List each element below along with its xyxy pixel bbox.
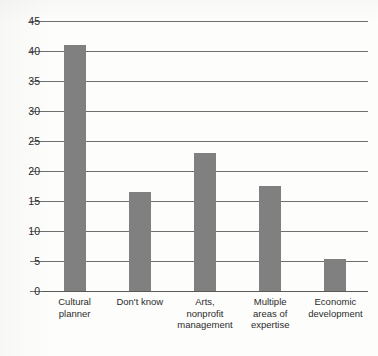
gridline	[42, 81, 368, 82]
bar	[194, 153, 216, 291]
bar	[324, 259, 346, 291]
y-axis-tick-label: 25	[0, 136, 40, 146]
gridline	[42, 21, 368, 22]
x-axis-category-label: Economic development	[298, 296, 372, 319]
gridline	[42, 111, 368, 112]
gridline	[42, 51, 368, 52]
x-axis-category-label: Cultural planner	[38, 296, 112, 319]
axis-baseline	[42, 291, 368, 292]
y-axis-tick-label: 40	[0, 46, 40, 56]
bar	[259, 186, 281, 291]
y-axis-tick-label: 0	[0, 286, 40, 296]
x-axis-category-label: Don't know	[103, 296, 177, 308]
x-axis-category-label: Arts, nonprofit management	[168, 296, 242, 331]
x-axis-labels: Cultural plannerDon't knowArts, nonprofi…	[42, 296, 368, 352]
bar	[129, 192, 151, 291]
bar	[64, 45, 86, 291]
y-axis-tick-label: 15	[0, 196, 40, 206]
y-axis-tick-label: 5	[0, 256, 40, 266]
y-axis-tick-label: 10	[0, 226, 40, 236]
gridline	[42, 141, 368, 142]
y-axis-tick-label: 45	[0, 16, 40, 26]
plot-area	[42, 21, 368, 291]
x-axis-category-label: Multiple areas of expertise	[233, 296, 307, 331]
bar-chart: Cultural plannerDon't knowArts, nonprofi…	[0, 0, 378, 356]
y-axis-tick-label: 30	[0, 106, 40, 116]
y-axis-tick-label: 20	[0, 166, 40, 176]
y-axis-tick-label: 35	[0, 76, 40, 86]
